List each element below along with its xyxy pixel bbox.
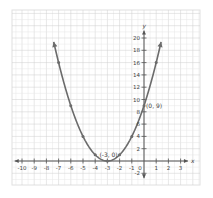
- data-point: [94, 153, 97, 156]
- x-tick-label: 1: [154, 165, 158, 171]
- y-axis-label: y: [142, 22, 147, 30]
- y-intercept-label: (0, 9): [146, 102, 162, 109]
- data-point: [130, 135, 133, 138]
- y-tick-label: 2: [137, 146, 141, 152]
- x-tick-label: -7: [56, 165, 62, 171]
- x-tick-label: -2: [117, 165, 122, 171]
- y-tick-label: -2: [135, 170, 140, 176]
- x-tick-label: -8: [44, 165, 50, 171]
- y-tick-label: 14: [133, 72, 140, 78]
- data-point: [69, 104, 72, 107]
- y-tick-label: 16: [133, 60, 140, 66]
- parabola-chart: -10-9-8-7-6-5-4-3-2-10123-22468101214161…: [0, 0, 213, 198]
- data-point: [106, 160, 109, 163]
- x-tick-label: -5: [80, 165, 86, 171]
- data-point: [57, 61, 60, 64]
- x-axis-label: x: [190, 157, 195, 164]
- x-tick-label: 3: [179, 165, 183, 171]
- y-tick-label: 12: [133, 84, 140, 90]
- x-tick-label: -4: [92, 165, 98, 171]
- data-point: [118, 153, 121, 156]
- y-tick-label: 8: [137, 109, 141, 115]
- x-tick-label: -6: [68, 165, 74, 171]
- y-tick-label: 4: [137, 133, 141, 139]
- x-tick-label: -3: [105, 165, 111, 171]
- x-tick-label: -9: [31, 165, 37, 171]
- y-tick-label: 18: [133, 47, 140, 53]
- y-tick-label: 10: [133, 97, 140, 103]
- y-tick-label: 6: [137, 121, 141, 127]
- data-point: [82, 135, 85, 138]
- vertex-label: (-3, 0): [99, 151, 117, 158]
- y-tick-label: 20: [133, 35, 140, 41]
- x-tick-label: -10: [18, 165, 27, 171]
- chart-canvas: -10-9-8-7-6-5-4-3-2-10123-22468101214161…: [0, 0, 213, 198]
- data-point: [155, 61, 158, 64]
- x-tick-label: 2: [167, 165, 171, 171]
